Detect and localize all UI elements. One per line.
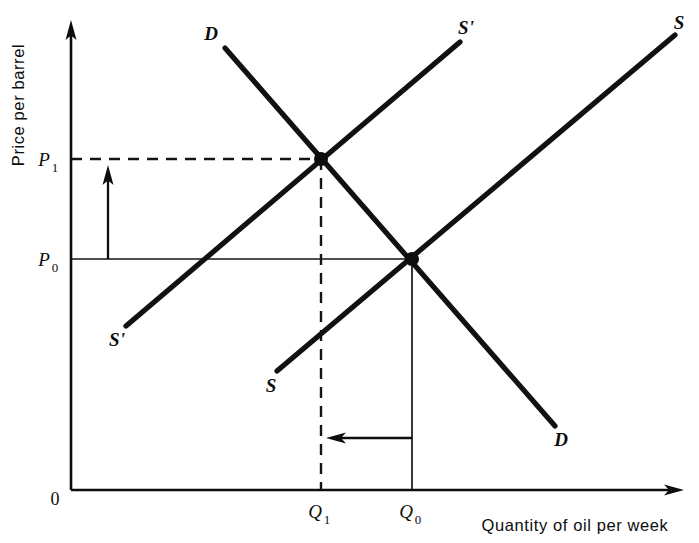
y-axis-title: Price per barrel — [9, 44, 27, 166]
x-tick-label-q0: Q — [399, 501, 413, 522]
supply-original-label-top: S — [674, 12, 685, 33]
y-tick-label-p1: P — [37, 149, 50, 170]
y-tick-sub-p1: 1 — [52, 160, 59, 175]
origin-label: 0 — [51, 489, 60, 509]
curve-labels-group: D D S' S' S S — [109, 12, 684, 450]
figure-canvas: D D S' S' S S P 1 P 0 Q 1 Q 0 0 Price pe… — [0, 0, 699, 543]
demand-label-top: D — [203, 23, 218, 44]
supply-curve-original[interactable] — [277, 35, 675, 371]
axis-titles-group: Price per barrel Quantity of oil per wee… — [9, 44, 669, 534]
supply-demand-figure: D D S' S' S S P 1 P 0 Q 1 Q 0 0 Price pe… — [0, 0, 699, 543]
supply-original-label-bottom: S — [266, 375, 277, 396]
demand-label-bottom: D — [553, 429, 568, 450]
x-tick-sub-q1: 1 — [324, 512, 331, 527]
curves-group — [126, 35, 675, 426]
supply-curve-shifted[interactable] — [126, 42, 460, 326]
supply-shifted-label-top: S' — [458, 17, 474, 38]
supply-shifted-label-bottom: S' — [109, 329, 125, 350]
y-tick-label-p0: P — [37, 249, 50, 270]
x-tick-sub-q0: 0 — [415, 512, 422, 527]
x-tick-label-q1: Q — [308, 501, 322, 522]
axes-group — [66, 20, 685, 496]
x-axis-title: Quantity of oil per week — [482, 516, 669, 534]
guide-lines-group — [71, 159, 412, 490]
y-tick-sub-p0: 0 — [52, 260, 59, 275]
equilibrium-point-new[interactable] — [314, 152, 328, 166]
equilibrium-point-initial[interactable] — [405, 252, 419, 266]
